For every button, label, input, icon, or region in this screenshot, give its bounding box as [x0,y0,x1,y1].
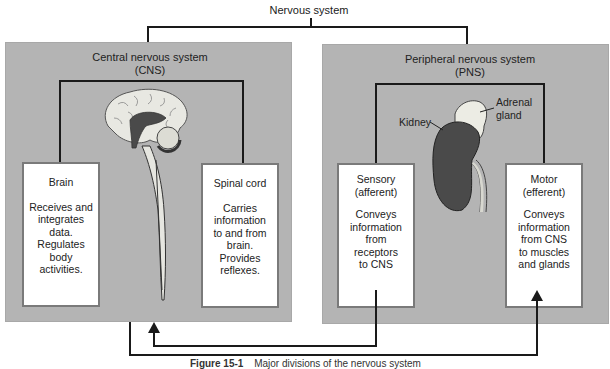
figure-number: Figure 15-1 [190,358,243,369]
figure-caption: Figure 15-1 Major divisions of the nervo… [190,358,421,369]
figure-caption-text: Major divisions of the nervous system [254,358,421,369]
